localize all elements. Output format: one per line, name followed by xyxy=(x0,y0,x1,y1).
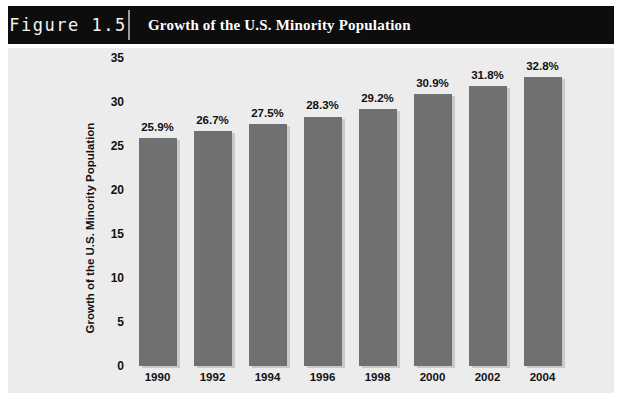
x-tick-label: 2000 xyxy=(406,370,460,384)
y-tick-label: 30 xyxy=(96,96,124,108)
bar-value-label: 32.8% xyxy=(516,61,570,73)
bar-value-label: 31.8% xyxy=(461,70,515,82)
y-axis-tick-labels: 05101520253035 xyxy=(96,58,124,366)
figure-header-bar: Figure 1.5 Growth of the U.S. Minority P… xyxy=(8,6,614,44)
bar-slot: 32.8% xyxy=(524,58,562,366)
x-tick-label: 1998 xyxy=(351,370,405,384)
plot-area: 25.9%26.7%27.5%28.3%29.2%30.9%31.8%32.8% xyxy=(130,58,570,366)
bar[interactable] xyxy=(304,117,342,366)
bar-value-label: 25.9% xyxy=(131,122,185,134)
figure-number-label: Figure 1.5 xyxy=(9,15,126,35)
x-tick-label: 1990 xyxy=(131,370,185,384)
source-note xyxy=(10,396,410,405)
bar-slot: 25.9% xyxy=(139,58,177,366)
figure-number-cell: Figure 1.5 xyxy=(8,6,128,44)
x-axis-tick-labels: 19901992199419961998200020022004 xyxy=(130,370,570,388)
x-tick-label: 2002 xyxy=(461,370,515,384)
y-tick-label: 15 xyxy=(96,228,124,240)
figure-title-cell: Growth of the U.S. Minority Population xyxy=(130,6,614,44)
y-tick-label: 0 xyxy=(96,360,124,372)
x-tick-label: 1996 xyxy=(296,370,350,384)
bar-value-label: 28.3% xyxy=(296,100,350,112)
bar-slot: 28.3% xyxy=(304,58,342,366)
x-tick-label: 1994 xyxy=(241,370,295,384)
bar-slot: 26.7% xyxy=(194,58,232,366)
bar-value-label: 30.9% xyxy=(406,78,460,90)
bar-slot: 29.2% xyxy=(359,58,397,366)
bar-slot: 31.8% xyxy=(469,58,507,366)
bar-value-label: 27.5% xyxy=(241,108,295,120)
y-tick-label: 5 xyxy=(96,316,124,328)
bar[interactable] xyxy=(359,109,397,366)
bar[interactable] xyxy=(194,131,232,366)
bar-slot: 30.9% xyxy=(414,58,452,366)
x-tick-label: 1992 xyxy=(186,370,240,384)
y-tick-label: 20 xyxy=(96,184,124,196)
y-tick-label: 35 xyxy=(96,52,124,64)
figure-title: Growth of the U.S. Minority Population xyxy=(148,17,411,34)
bar-value-label: 26.7% xyxy=(186,115,240,127)
bar[interactable] xyxy=(249,124,287,366)
bar[interactable] xyxy=(524,77,562,366)
y-tick-label: 10 xyxy=(96,272,124,284)
y-tick-label: 25 xyxy=(96,140,124,152)
bar[interactable] xyxy=(469,86,507,366)
bar-value-label: 29.2% xyxy=(351,93,405,105)
bar[interactable] xyxy=(139,138,177,366)
bar[interactable] xyxy=(414,94,452,366)
x-tick-label: 2004 xyxy=(516,370,570,384)
figure-container: Figure 1.5 Growth of the U.S. Minority P… xyxy=(0,0,630,405)
bar-slot: 27.5% xyxy=(249,58,287,366)
